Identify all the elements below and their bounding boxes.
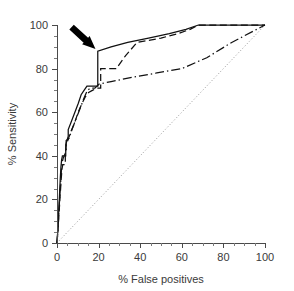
y-tick-label: 100 — [30, 19, 48, 31]
x-tick-label: 80 — [217, 251, 229, 263]
x-axis-title: % False positives — [118, 273, 204, 285]
y-tick-label: 40 — [36, 150, 48, 162]
x-tick-label: 60 — [176, 251, 188, 263]
roc-figure: 020406080100 020406080100 % False positi… — [0, 0, 294, 291]
y-tick-label: 20 — [36, 193, 48, 205]
y-tick-label: 60 — [36, 106, 48, 118]
x-tick-label: 0 — [54, 251, 60, 263]
x-tick-label: 100 — [256, 251, 274, 263]
x-tick-label: 40 — [134, 251, 146, 263]
y-axis-title: % Sensitivity — [6, 102, 18, 165]
x-tick-label: 20 — [92, 251, 104, 263]
y-tick-label: 80 — [36, 63, 48, 75]
roc-plot: 020406080100 020406080100 % False positi… — [0, 0, 294, 291]
y-tick-label: 0 — [42, 237, 48, 249]
